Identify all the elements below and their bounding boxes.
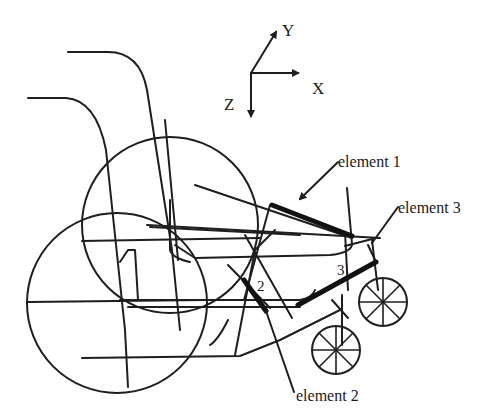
rear-push-handle	[68, 52, 180, 330]
callout-arrow-icon	[300, 162, 338, 199]
element-1-label: element 1	[338, 153, 401, 170]
z-axis-label: Z	[224, 95, 234, 114]
coordinate-axes: Y X Z	[224, 21, 324, 116]
element-2-label: element 2	[296, 387, 359, 404]
callout-element-1: element 1	[300, 153, 401, 199]
y-axis-arrow-icon	[251, 32, 276, 73]
x-axis-label: X	[312, 79, 324, 98]
element-2-marker: 2	[257, 278, 265, 294]
front-push-handle	[28, 98, 128, 387]
element-3-label: element 3	[398, 199, 461, 216]
callout-element-3: element 3 3	[337, 199, 461, 278]
wheelchair-frame-drawing: Y X Z	[0, 0, 494, 418]
element-1-beam	[272, 205, 352, 236]
callout-leader-line	[372, 207, 398, 243]
frame-tubes	[28, 185, 380, 358]
caster-wheel-rear	[312, 326, 360, 374]
element-3-marker: 3	[337, 262, 345, 278]
callout-leader-line	[266, 311, 294, 392]
wheelchair-diagram: Y X Z	[0, 0, 494, 418]
caster-wheel-front	[359, 278, 407, 326]
rear-wheels	[27, 137, 258, 393]
push-handles	[28, 52, 180, 387]
y-axis-label: Y	[282, 21, 294, 40]
